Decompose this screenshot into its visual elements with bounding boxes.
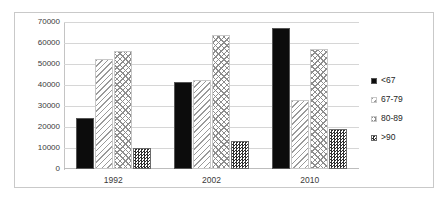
legend-label: 80-89 [381, 114, 403, 123]
bar-2002-67-79 [193, 80, 211, 169]
bar-2010-<67 [272, 28, 290, 169]
bar-1992-67-79 [95, 59, 113, 169]
bar-2002-80-89 [212, 35, 230, 169]
x-tick-label-1992: 1992 [64, 174, 162, 186]
x-tick-label-2002: 2002 [162, 174, 260, 186]
plot-area [64, 22, 359, 169]
y-tick-label: 40000 [16, 81, 60, 89]
legend-item-67-79[interactable]: 67-79 [371, 90, 433, 109]
y-tick-label: 20000 [16, 123, 60, 131]
legend-item->90[interactable]: >90 [371, 128, 433, 147]
y-tick-label: 70000 [16, 18, 60, 26]
y-tick-label: 10000 [16, 144, 60, 152]
bar-1992->90 [133, 148, 151, 169]
bar-2010-80-89 [310, 49, 328, 169]
bar-1992-<67 [76, 118, 94, 169]
legend-swatch-icon [371, 135, 377, 141]
y-tick-label: 50000 [16, 60, 60, 68]
legend-swatch-icon [371, 116, 377, 122]
bar-1992-80-89 [114, 51, 132, 169]
gridline-70000 [64, 22, 359, 23]
legend-swatch-icon [371, 78, 377, 84]
x-axis-tick-labels: 199220022010 [64, 174, 359, 188]
legend-item-80-89[interactable]: 80-89 [371, 109, 433, 128]
x-tick-label-2010: 2010 [261, 174, 359, 186]
bar-2010-67-79 [291, 100, 309, 169]
y-tick-label: 0 [16, 165, 60, 173]
chart-legend: <6767-7980-89>90 [371, 71, 433, 147]
chart-frame: 010000200003000040000500006000070000 199… [14, 12, 434, 188]
y-tick-label: 30000 [16, 102, 60, 110]
bar-2002->90 [231, 141, 249, 169]
legend-item-<67[interactable]: <67 [371, 71, 433, 90]
bar-2010->90 [329, 129, 347, 169]
legend-label: 67-79 [381, 95, 403, 104]
legend-swatch-icon [371, 97, 377, 103]
y-axis-tick-labels: 010000200003000040000500006000070000 [15, 22, 60, 169]
legend-label: <67 [381, 76, 395, 85]
bar-2002-<67 [174, 82, 192, 169]
y-tick-label: 60000 [16, 39, 60, 47]
legend-label: >90 [381, 133, 395, 142]
